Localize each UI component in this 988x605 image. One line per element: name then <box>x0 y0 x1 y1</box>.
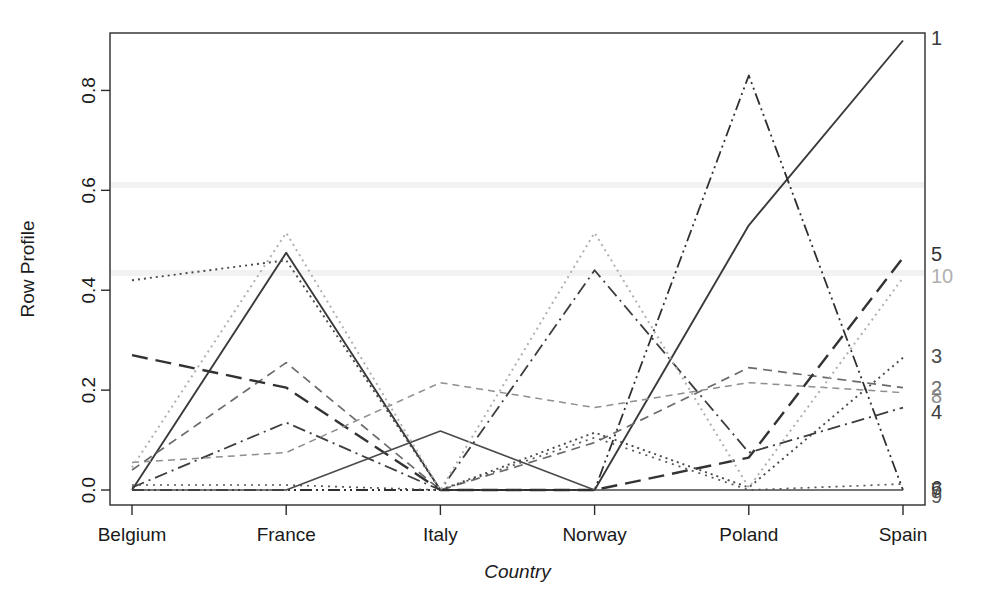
y-tick-label: 0.8 <box>78 77 99 103</box>
series-label-5: 5 <box>931 243 942 265</box>
x-tick-label-france: France <box>257 524 316 545</box>
series-label-9: 9 <box>931 485 942 507</box>
chart-background <box>0 0 988 605</box>
series-label-1: 1 <box>931 27 942 49</box>
x-tick-label-italy: Italy <box>423 524 458 545</box>
x-tick-label-belgium: Belgium <box>98 524 167 545</box>
series-label-3: 3 <box>931 345 942 367</box>
row-profile-line-chart: 0.00.20.40.60.8 BelgiumFranceItalyNorway… <box>0 0 988 605</box>
series-label-8: 8 <box>931 385 942 407</box>
y-tick-label: 0.0 <box>78 477 99 503</box>
y-tick-label: 0.4 <box>78 277 99 304</box>
x-tick-label-poland: Poland <box>719 524 778 545</box>
scan-band <box>111 270 924 276</box>
x-tick-label-norway: Norway <box>562 524 627 545</box>
x-axis-title: Country <box>484 561 552 582</box>
y-tick-label: 0.6 <box>78 177 99 203</box>
y-tick-label: 0.2 <box>78 377 99 403</box>
y-axis-title: Row Profile <box>17 220 38 317</box>
chart-canvas: 0.00.20.40.60.8 BelgiumFranceItalyNorway… <box>0 0 988 605</box>
scan-band <box>111 182 924 188</box>
series-label-10: 10 <box>931 265 953 287</box>
x-tick-label-spain: Spain <box>879 524 928 545</box>
